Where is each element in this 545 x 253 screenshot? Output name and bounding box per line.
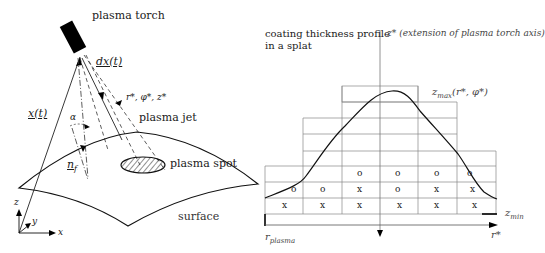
alpha-label: α [70, 113, 76, 122]
axis-y-label: y [32, 217, 37, 226]
r-plasma-label: rplasma [265, 232, 295, 245]
direction-vector-label: dx(t) [96, 56, 122, 67]
grid-cell: x [472, 201, 477, 210]
grid-cell: o [434, 169, 439, 178]
grid-cell: o [395, 185, 400, 194]
normal-subscript: f [74, 164, 77, 173]
grid-cell: x [357, 185, 362, 194]
grid-cell: x [434, 201, 439, 210]
normal-vector-label: nf [67, 159, 77, 173]
grid-cell: x [282, 201, 287, 210]
grid-cell: o [357, 169, 362, 178]
zmin-subscript: min [510, 213, 523, 221]
zmax-label: zmax(r*, φ*) [432, 87, 488, 100]
grid-cell: o [467, 169, 472, 178]
surface-outline [19, 132, 258, 226]
r-axis-label: r* [491, 230, 501, 240]
axis-x-label: x [58, 228, 63, 237]
plasma-jet-label: plasma jet [139, 112, 197, 123]
z-axis-label: z* (extension of plasma torch axis) [387, 29, 545, 38]
grid-cell: x [470, 185, 475, 194]
z-axis-symbol: z* [387, 28, 396, 38]
zmax-args: (r*, φ*) [452, 86, 488, 97]
plasma-torch-icon [60, 20, 86, 53]
surface-label: surface [178, 211, 219, 222]
grid-cell: x [320, 201, 325, 210]
z-axis-note: (extension of plasma torch axis) [399, 28, 545, 38]
thickness-grid [265, 86, 496, 214]
grid-cell: x [434, 185, 439, 194]
grid-cell: o [320, 185, 325, 194]
grid-cell: o [395, 169, 400, 178]
plasma-spot-label: plasma spot [170, 158, 237, 169]
local-coords-label: r*, φ*, z* [126, 93, 166, 102]
thickness-profile-curve [265, 91, 497, 199]
zmax-subscript: max [437, 92, 452, 100]
profile-title-line1: coating thickness profile [265, 29, 390, 39]
axis-z-label: z [14, 198, 19, 207]
zmin-label: zmin [505, 208, 524, 221]
profile-title-line2: in a splat [265, 41, 312, 51]
position-vector-label: x(t) [28, 108, 47, 119]
plasma-spot [121, 157, 165, 173]
grid-cell: o [291, 185, 296, 194]
grid-cell: x [397, 201, 402, 210]
plasma-torch-label: plasma torch [92, 10, 165, 21]
arrow-right-icon [489, 222, 498, 228]
r-plasma-subscript: plasma [270, 237, 295, 245]
grid-cell: x [357, 201, 362, 210]
arrow-down-icon [377, 230, 383, 237]
